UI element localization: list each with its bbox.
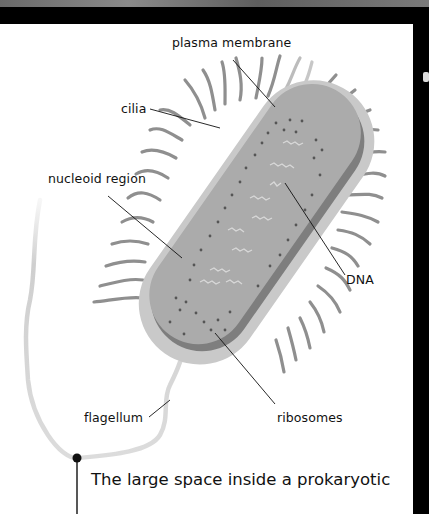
label-dna: DNA (346, 272, 374, 287)
label-nucleoid-region: nucleoid region (48, 171, 146, 186)
cell-body (115, 56, 398, 388)
label-ribosomes: ribosomes (277, 410, 343, 425)
caption-text: The large space inside a prokaryotic (91, 470, 390, 489)
label-flagellum: flagellum (84, 410, 143, 425)
label-cilia: cilia (121, 101, 146, 116)
prokaryote-diagram (0, 0, 429, 514)
label-plasma-membrane: plasma membrane (172, 35, 291, 50)
